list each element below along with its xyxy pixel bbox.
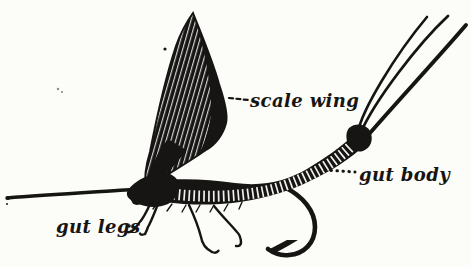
hook-point-barb <box>266 240 298 252</box>
ink-speck <box>61 91 63 93</box>
gut-line <box>6 189 144 205</box>
fish-hook-icon <box>266 187 315 255</box>
ink-speck <box>57 88 59 90</box>
label-gut-body: gut body <box>359 164 451 185</box>
ink-speck <box>163 47 166 50</box>
head-knob <box>131 193 143 205</box>
leader-dashes-wing <box>229 98 248 100</box>
label-scale-wing: scale wing <box>249 90 359 111</box>
engraving-figure: scale wing gut body gut legs <box>0 0 471 267</box>
hook-bend <box>268 187 315 255</box>
tail-whisks <box>346 16 466 152</box>
label-gut-legs: gut legs <box>56 216 140 237</box>
leader-dots-body <box>325 170 355 172</box>
wing-shape <box>145 13 226 189</box>
fly-fishing-fly-illustration: scale wing gut body gut legs <box>0 0 471 267</box>
